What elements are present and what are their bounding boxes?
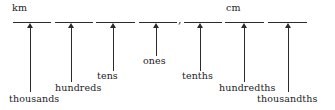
- arrow-stem-ones: [156, 26, 157, 56]
- unit-label-cm: cm: [226, 2, 241, 13]
- arrow-stem-hundredths: [244, 26, 245, 82]
- place-label-ones: ones: [143, 55, 166, 66]
- place-value-diagram: km cm , thousands hundreds tens ones ten…: [0, 0, 335, 110]
- place-label-tens: tens: [97, 70, 118, 81]
- arrow-stem-hundreds: [71, 26, 72, 82]
- arrow-head-hundreds: [68, 23, 74, 28]
- arrow-stem-thousands: [30, 26, 31, 92]
- arrow-head-hundredths: [241, 23, 247, 28]
- arrow-head-thousandths: [285, 23, 291, 28]
- place-label-thousands: thousands: [9, 93, 59, 104]
- arrow-head-tenths: [197, 23, 203, 28]
- decimal-separator-mark: ,: [178, 14, 182, 25]
- arrow-stem-thousandths: [288, 26, 289, 92]
- place-label-hundreds: hundreds: [55, 82, 101, 93]
- arrow-head-ones: [153, 23, 159, 28]
- arrow-head-tens: [110, 23, 116, 28]
- arrow-stem-tens: [113, 26, 114, 71]
- arrow-stem-tenths: [200, 26, 201, 71]
- place-label-thousandths: thousandths: [257, 93, 317, 104]
- arrow-head-thousands: [27, 23, 33, 28]
- place-label-tenths: tenths: [182, 70, 213, 81]
- unit-label-km: km: [12, 2, 27, 13]
- place-label-hundredths: hundredths: [219, 82, 276, 93]
